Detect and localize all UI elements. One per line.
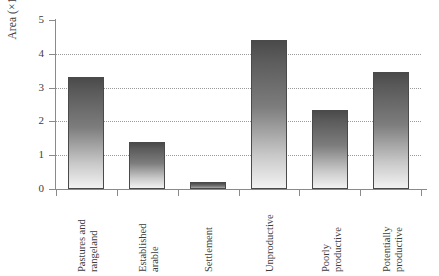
x-axis-tick-0 bbox=[56, 190, 57, 196]
bar-chart-figure: Area (×109 hectares) 012345Pastures andr… bbox=[0, 0, 439, 276]
x-axis-line bbox=[49, 189, 427, 190]
x-axis-label-line: Poorly bbox=[320, 244, 332, 272]
y-tick-mark-5 bbox=[49, 20, 55, 21]
x-axis-tick-2 bbox=[178, 190, 179, 196]
y-tick-label-text: 0 bbox=[39, 183, 45, 194]
y-tick-mark-0 bbox=[49, 189, 55, 190]
x-axis-tick-6 bbox=[421, 190, 422, 196]
y-tick-label-text: 2 bbox=[39, 115, 45, 126]
y-tick-mark-4 bbox=[49, 54, 55, 55]
x-axis-label-line: Unproductive bbox=[264, 214, 276, 272]
x-axis-label-line: rangeland bbox=[88, 231, 100, 272]
y-axis-title: Area (×109 hectares) bbox=[6, 0, 20, 66]
y-tick-label-4: 4 bbox=[0, 54, 48, 55]
y-tick-label-0: 0 bbox=[0, 189, 48, 190]
y-tick-label-text: 5 bbox=[39, 14, 45, 25]
x-axis-label-line: Potentially bbox=[381, 227, 393, 273]
x-axis-tick-4 bbox=[299, 190, 300, 196]
bar-established-arable[interactable] bbox=[129, 142, 165, 189]
x-axis-tick-1 bbox=[117, 190, 118, 196]
y-tick-label-5: 5 bbox=[0, 20, 48, 21]
gridline-3 bbox=[56, 88, 421, 89]
gridline-1 bbox=[56, 155, 421, 156]
x-axis-tick-3 bbox=[239, 190, 240, 196]
bar-unproductive[interactable] bbox=[251, 40, 287, 189]
y-tick-label-text: 3 bbox=[39, 82, 45, 93]
x-axis-tick-5 bbox=[360, 190, 361, 196]
bar-settlement[interactable] bbox=[190, 182, 226, 189]
x-axis-label-line: Pastures and bbox=[76, 219, 88, 272]
y-tick-mark-3 bbox=[49, 88, 55, 89]
y-tick-label-2: 2 bbox=[0, 121, 48, 122]
y-tick-label-text: 1 bbox=[39, 149, 45, 160]
y-tick-mark-1 bbox=[49, 155, 55, 156]
y-tick-label-3: 3 bbox=[0, 88, 48, 89]
bar-pastures-and-rangeland[interactable] bbox=[68, 77, 104, 189]
gridline-2 bbox=[56, 121, 421, 122]
bar-poorly-productive[interactable] bbox=[312, 110, 348, 189]
y-axis-line bbox=[55, 19, 56, 190]
gridline-4 bbox=[56, 54, 421, 55]
x-axis-label-line: arable bbox=[149, 246, 161, 272]
y-tick-label-1: 1 bbox=[0, 155, 48, 156]
x-axis-label-line: productive bbox=[393, 227, 405, 272]
x-axis-label-line: productive bbox=[332, 227, 344, 272]
y-tick-label-text: 4 bbox=[39, 48, 45, 59]
y-tick-mark-2 bbox=[49, 121, 55, 122]
bar-potentially-productive[interactable] bbox=[373, 72, 409, 189]
x-axis-label-line: Established bbox=[137, 224, 149, 272]
x-axis-label-line: Settlement bbox=[203, 227, 215, 272]
